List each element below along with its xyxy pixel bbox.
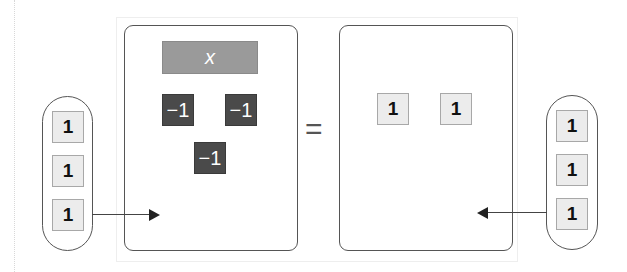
tile-label: −1 [199, 147, 222, 170]
tile-label: 1 [451, 98, 462, 120]
unit-tile: 1 [440, 93, 472, 125]
unit-tile: 1 [556, 198, 588, 230]
tile-label: 1 [63, 204, 74, 226]
unit-tile: 1 [52, 199, 84, 231]
tile-label: −1 [167, 99, 190, 122]
arrow-right-icon [149, 209, 160, 221]
tile-label: 1 [388, 98, 399, 120]
negative-one-tile: −1 [162, 94, 194, 126]
arrow-left-line [487, 212, 547, 213]
unit-tile: 1 [556, 110, 588, 142]
tile-label: 1 [567, 115, 578, 137]
negative-one-tile: −1 [225, 94, 257, 126]
tile-label: 1 [567, 159, 578, 181]
tile-label: −1 [230, 99, 253, 122]
tile-label: 1 [63, 160, 74, 182]
arrow-left-icon [477, 207, 488, 219]
tile-label: 1 [63, 116, 74, 138]
dotted-margin [14, 0, 15, 272]
unit-tile: 1 [52, 111, 84, 143]
x-label: x [205, 46, 215, 69]
equals-sign: = [305, 112, 323, 146]
arrow-right-line [92, 214, 150, 215]
negative-one-tile: −1 [194, 142, 226, 174]
unit-tile: 1 [52, 155, 84, 187]
unit-tile: 1 [556, 154, 588, 186]
tile-label: 1 [567, 203, 578, 225]
variable-x-tile: x [162, 41, 258, 74]
unit-tile: 1 [377, 93, 409, 125]
